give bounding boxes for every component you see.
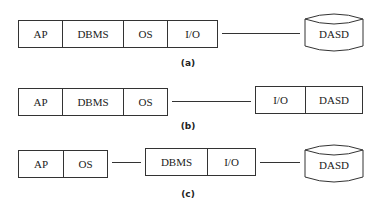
- diagram-c-db-stack: DBMS I/O: [145, 148, 256, 176]
- cell-io: I/O: [256, 87, 306, 113]
- cell-ap: AP: [19, 151, 64, 177]
- caption-a: (a): [181, 58, 195, 68]
- cell-dbms: DBMS: [146, 149, 208, 175]
- dasd-label: DASD: [304, 28, 364, 40]
- cell-os: OS: [64, 151, 107, 177]
- cell-ap: AP: [19, 21, 63, 47]
- cell-os: OS: [124, 89, 167, 115]
- connector-a: [222, 33, 300, 34]
- cell-dbms: DBMS: [63, 89, 124, 115]
- cell-io: I/O: [208, 149, 255, 175]
- dasd-label: DASD: [304, 159, 364, 171]
- dasd-cylinder-c: DASD: [304, 143, 364, 184]
- cell-os: OS: [124, 21, 168, 47]
- diagram-c-host-stack: AP OS: [18, 150, 108, 178]
- diagram-a-stack: AP DBMS OS I/O: [18, 20, 218, 48]
- diagram-b-host-stack: AP DBMS OS: [18, 88, 168, 116]
- connector-b: [172, 101, 251, 102]
- cell-ap: AP: [19, 89, 63, 115]
- cell-io: I/O: [168, 21, 217, 47]
- connector-c-2: [260, 162, 300, 163]
- cell-dbms: DBMS: [63, 21, 124, 47]
- caption-c: (c): [181, 189, 195, 199]
- caption-b: (b): [181, 121, 196, 131]
- connector-c-1: [112, 162, 141, 163]
- diagram-b-storage-stack: I/O DASD: [255, 86, 363, 114]
- dasd-cylinder-a: DASD: [304, 12, 364, 53]
- cell-dasd: DASD: [306, 87, 362, 113]
